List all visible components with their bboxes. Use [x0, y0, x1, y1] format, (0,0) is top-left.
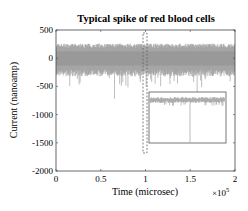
- y-tick-label: 0: [49, 53, 54, 63]
- chart-title: Typical spike of red blood cells: [77, 13, 215, 24]
- chart: Typical spike of red blood cells 5000-50…: [0, 0, 248, 211]
- y-tick-label: -500: [37, 81, 54, 91]
- y-tick-label: 500: [40, 25, 54, 35]
- x-tick-label: 2: [233, 174, 238, 184]
- y-tick-label: -1500: [32, 138, 53, 148]
- x-tick-label: 1: [143, 174, 148, 184]
- y-tick-labels: 5000-500-1000-1500-2000: [32, 25, 54, 176]
- y-tick-label: -2000: [32, 166, 53, 176]
- y-tick-label: -1000: [32, 110, 53, 120]
- x-tick-labels: 00.511.52: [54, 174, 238, 184]
- x-tick-label: 0: [54, 174, 59, 184]
- x-tick-label: 1.5: [185, 174, 197, 184]
- y-axis-label: Current (nanoamp): [8, 62, 20, 138]
- x-axis-label: Time (microsec): [112, 186, 178, 198]
- x-multiplier: ×105: [212, 186, 229, 198]
- signal-trace: [56, 44, 235, 99]
- inset: [149, 92, 226, 143]
- x-tick-label: 0.5: [95, 174, 107, 184]
